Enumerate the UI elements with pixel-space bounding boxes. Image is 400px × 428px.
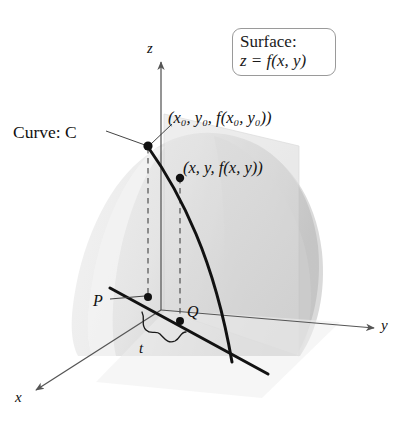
leader-curve-c xyxy=(106,131,145,145)
diagram-canvas xyxy=(0,0,400,428)
axis-z-label: z xyxy=(147,40,153,57)
curve-c-label: Curve: C xyxy=(13,122,77,143)
marker-point-upper xyxy=(143,141,152,150)
surface-callout-box: Surface: z = f(x, y) xyxy=(232,28,336,76)
axis-y-label: y xyxy=(381,317,388,334)
marker-point-p xyxy=(144,293,152,301)
parameter-t-label: t xyxy=(139,340,143,357)
surface-curve-diagram: Surface: z = f(x, y) Curve: C (x₀, y₀, f… xyxy=(0,0,400,428)
surface-callout-title: Surface: xyxy=(240,32,328,51)
axis-x-label: x xyxy=(15,389,22,406)
point-q-label: Q xyxy=(187,303,199,321)
point-upper-label: (x₀, y₀, f(x₀, y₀)) xyxy=(168,108,272,128)
surface-callout-equation: z = f(x, y) xyxy=(240,51,328,70)
point-p-label: P xyxy=(93,292,103,310)
marker-point-q xyxy=(176,317,184,325)
point-lower-label: (x, y, f(x, y)) xyxy=(183,158,263,178)
